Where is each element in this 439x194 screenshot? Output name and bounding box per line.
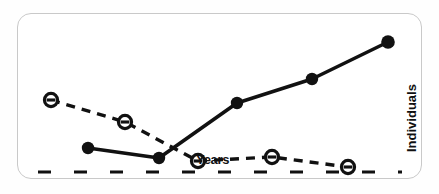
series-rising-line: [82, 35, 395, 164]
chart-figure: Years Individuals: [0, 0, 439, 194]
data-point-marker: [306, 73, 318, 85]
data-point-marker: [265, 150, 278, 163]
y-axis-label: Individuals: [404, 84, 419, 152]
data-point-marker: [231, 97, 243, 109]
x-axis-label: Years: [196, 152, 229, 167]
data-point-marker: [44, 93, 57, 106]
series-rising-markers: [82, 35, 395, 164]
data-point-marker: [153, 152, 165, 164]
data-point-marker: [118, 115, 131, 128]
data-point-marker: [341, 160, 354, 173]
data-point-marker: [82, 142, 94, 154]
data-point-marker: [381, 35, 395, 49]
